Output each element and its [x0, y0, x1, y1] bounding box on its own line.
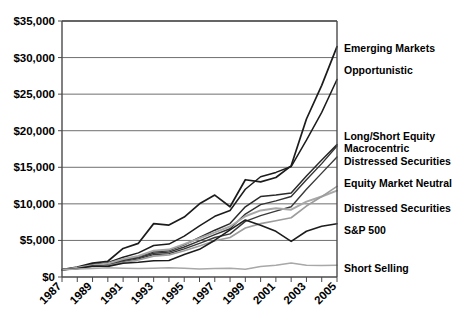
- x-axis-tick-label: 2005: [312, 280, 339, 307]
- x-axis-tick-label: 2003: [281, 280, 308, 307]
- series-annotations: Emerging MarketsOpportunisticLong/Short …: [344, 42, 452, 274]
- x-axis-ticks: [62, 277, 337, 282]
- x-axis-labels: 1987198919911993199519971999200120032005: [37, 280, 339, 307]
- y-axis-tick-label: $25,000: [13, 88, 55, 100]
- x-axis-tick-label: 1997: [190, 280, 217, 307]
- x-axis-tick-label: 1991: [98, 280, 125, 307]
- chart-figure: $0$5,000$10,000$15,000$20,000$25,000$30,…: [0, 0, 475, 322]
- y-axis-tick-label: $5,000: [20, 234, 55, 246]
- series-line-6: [62, 186, 337, 269]
- x-axis-tick-label: 1999: [220, 280, 247, 307]
- y-axis-labels: $0$5,000$10,000$15,000$20,000$25,000$30,…: [13, 15, 55, 283]
- series-label-4: Distressed Securities: [344, 155, 451, 167]
- y-axis-tick-label: $20,000: [13, 125, 55, 137]
- series-label-7: S&P 500: [344, 224, 386, 236]
- series-label-5: Equity Market Neutral: [344, 177, 452, 189]
- series-label-8: Short Selling: [344, 262, 409, 274]
- data-series-lines: [62, 47, 337, 270]
- x-axis-tick-label: 2001: [251, 280, 278, 307]
- y-axis-tick-label: $35,000: [13, 15, 55, 27]
- series-label-3: Macrocentric: [344, 142, 410, 154]
- series-label-1: Opportunistic: [344, 64, 413, 76]
- x-axis-tick-label: 1989: [67, 280, 94, 307]
- y-axis-tick-label: $10,000: [13, 198, 55, 210]
- y-axis-tick-label: $15,000: [13, 161, 55, 173]
- x-axis-tick-label: 1995: [159, 280, 186, 307]
- y-axis-tick-label: $30,000: [13, 52, 55, 64]
- series-label-6: Distressed Securities: [344, 202, 451, 214]
- series-label-2: Long/Short Equity: [344, 130, 435, 142]
- x-axis-tick-label: 1987: [37, 280, 64, 307]
- x-axis-tick-label: 1993: [128, 280, 155, 307]
- line-chart: $0$5,000$10,000$15,000$20,000$25,000$30,…: [0, 0, 475, 322]
- series-label-0: Emerging Markets: [344, 42, 435, 54]
